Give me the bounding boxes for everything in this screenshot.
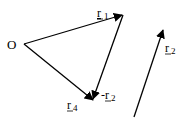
vector-r2 bbox=[134, 30, 163, 117]
label-r2: r 2 bbox=[165, 41, 176, 56]
label-r1: r 1 bbox=[97, 6, 109, 21]
label-r4: r 4 bbox=[67, 98, 78, 113]
svg-text:1: 1 bbox=[104, 11, 109, 21]
svg-text:r: r bbox=[165, 41, 169, 55]
svg-text:r: r bbox=[97, 6, 101, 20]
svg-text:2: 2 bbox=[111, 93, 116, 103]
vector-neg-r2 bbox=[93, 15, 123, 99]
origin-label: O bbox=[7, 37, 16, 52]
vector-r4 bbox=[24, 44, 93, 100]
svg-text:r: r bbox=[67, 98, 71, 112]
vector-diagram: O r 1 - r 2 r 4 r 2 bbox=[0, 0, 181, 123]
svg-text:r: r bbox=[105, 88, 109, 102]
svg-text:4: 4 bbox=[73, 103, 78, 113]
label-neg-r2: - r 2 bbox=[101, 88, 116, 103]
svg-text:2: 2 bbox=[171, 46, 176, 56]
